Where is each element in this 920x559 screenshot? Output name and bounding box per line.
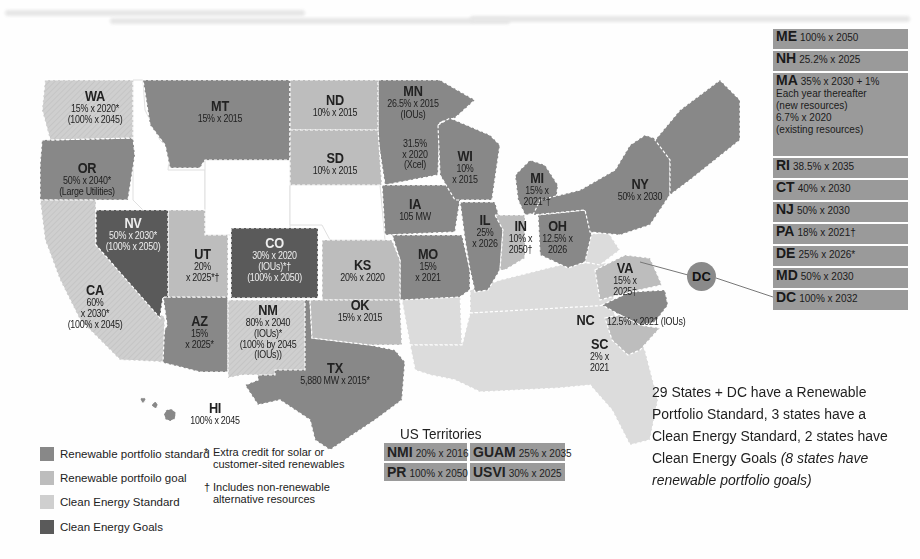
- state-label-IA: IA105 MW: [390, 196, 440, 222]
- state-label-NV: NV50% x 2030* (100% x 2050): [98, 215, 168, 252]
- ne-box-MD: MD50% x 2030: [773, 268, 908, 288]
- legend-swatch-ceg: [40, 520, 54, 534]
- state-label-WA: WA15% x 2020* (100% x 2045): [55, 88, 135, 125]
- state-label-TX: TX5,880 MW x 2015*: [285, 360, 385, 386]
- state-label-NC: NC 12.5% x 2021 (IOUs): [575, 312, 685, 328]
- footnote-dagger: †Includes non-renewable alternative reso…: [213, 482, 353, 505]
- state-label-SC: SC2% x 2021: [577, 336, 622, 373]
- legend-item-ceg: Clean Energy Goals: [40, 520, 163, 534]
- legend-item-ces: Clean Energy Standard: [40, 495, 180, 509]
- state-label-IN: IN10% x 2050†: [503, 218, 538, 255]
- state-label-OH: OH12.5% x 2026: [535, 218, 580, 255]
- legend-swatch-ces: [40, 495, 54, 509]
- territories-title: US Territories: [400, 425, 482, 442]
- state-WY: [205, 160, 290, 235]
- state-label-IL: IL25% x 2026: [465, 212, 505, 249]
- state-label-HI: HI100% x 2045: [180, 400, 250, 426]
- territory-USVI: USVI30% x 2025: [470, 463, 565, 481]
- state-label-UT: UT20% x 2025*†: [180, 246, 225, 283]
- state-label-AZ: AZ15% x 2025*: [172, 313, 227, 350]
- ne-box-NH: NH25.2% x 2025: [773, 51, 908, 71]
- state-label-WI: WI10% x 2015: [445, 148, 485, 185]
- state-label-KS: KS20% x 2020: [325, 257, 400, 283]
- ne-box-ME: ME100% x 2050: [773, 29, 908, 49]
- state-label-OK: OK15% x 2015: [320, 297, 400, 323]
- state-label-MN: MN26.5% x 2015 (IOUs): [378, 83, 448, 120]
- state-label-MI: MI15% x 2021*†: [517, 170, 557, 207]
- state-label-ND: ND10% x 2015: [295, 92, 375, 118]
- state-label-SD: SD10% x 2015: [295, 150, 375, 176]
- ne-box-MA: MA35% x 2030 + 1% Each year thereafter (…: [773, 73, 908, 156]
- dc-callout: DC: [687, 262, 716, 291]
- state-label-CA: CA60% x 2030* (100% x 2045): [60, 282, 130, 329]
- ne-box-PA: PA18% x 2021†: [773, 224, 908, 244]
- territory-GUAM: GUAM25% x 2035: [470, 443, 565, 461]
- footnote-asterisk: *Extra credit for solar or customer-site…: [213, 447, 353, 470]
- ne-box-DE: DE25% x 2026*: [773, 246, 908, 266]
- state-label-VA: VA15% x 2025†: [605, 260, 645, 297]
- state-label-MT: MT15% x 2015: [170, 98, 270, 124]
- state-label-MO: MO15% x 2021: [408, 246, 448, 283]
- ne-box-RI: RI38.5% x 2035: [773, 158, 908, 178]
- state-label-NM: NM80% x 2040 (IOUs)* (100% by 2045 (IOUs…: [228, 302, 308, 360]
- state-label-MN-xcel: 31.5% x 2020 (Xcel): [390, 138, 440, 170]
- legend-item-rps: Renewable portfolio standard: [40, 447, 210, 461]
- state-label-NY: NY50% x 2030: [610, 176, 670, 202]
- summary-text: 29 States + DC have a Renewable Portfoli…: [652, 381, 893, 491]
- ne-box-DC: DC100% x 2032: [773, 290, 908, 310]
- state-label-CO: CO30% x 2020 (IOUs)*† (100% x 2050): [232, 235, 317, 282]
- legend-swatch-rps: [40, 447, 54, 461]
- state-label-OR: OR50% x 2040* (Large Utilities): [42, 160, 132, 197]
- state-HI: [164, 409, 176, 421]
- dc-leader-line-2: [716, 278, 773, 297]
- territory-NMI: NMI20% x 2016: [384, 443, 467, 461]
- legend-swatch-goal: [40, 471, 54, 485]
- ne-box-NJ: NJ50% x 2030: [773, 202, 908, 222]
- ne-box-CT: CT40% x 2030: [773, 180, 908, 200]
- legend-item-goal: Renewable portfoilo goal: [40, 471, 187, 485]
- territory-PR: PR100% x 2050: [384, 463, 467, 481]
